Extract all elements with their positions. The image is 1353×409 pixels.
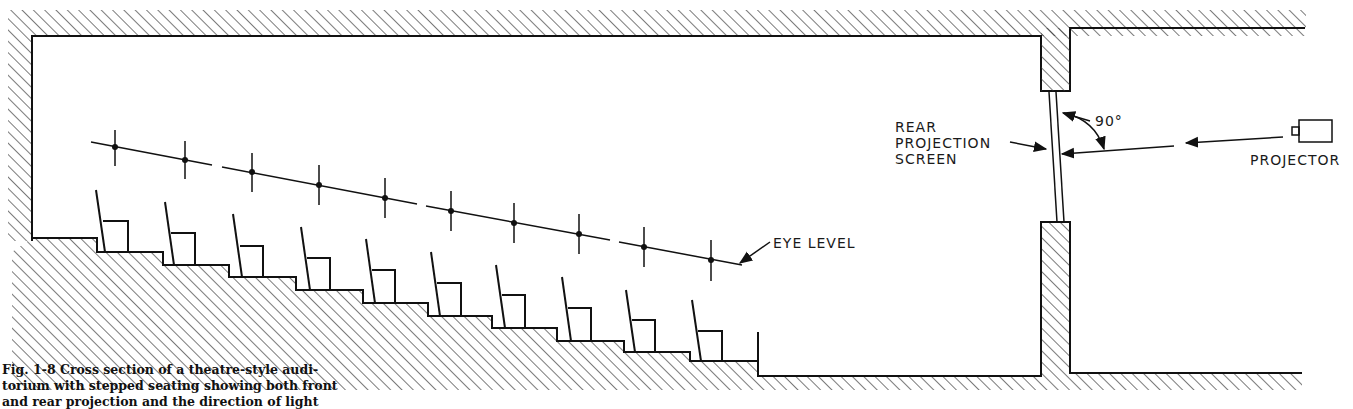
- caption-line-3: and rear projection and the direction of…: [2, 394, 342, 409]
- cross-section-diagram: EYE LEVEL REAR PROJECTION SCREEN 90° PRO…: [0, 0, 1353, 409]
- seat: [431, 252, 461, 316]
- eye-level-pointer-arrow: [740, 242, 770, 263]
- screen-label-line-1: REAR: [895, 119, 937, 135]
- projector-icon: [1292, 120, 1332, 142]
- seat: [496, 265, 525, 328]
- seat: [96, 190, 128, 252]
- angle-label: 90°: [1095, 113, 1123, 129]
- seat: [301, 227, 330, 290]
- seat: [366, 239, 395, 303]
- seat: [165, 202, 195, 265]
- projector-label: PROJECTOR: [1250, 152, 1340, 168]
- eye-level-line: [91, 130, 770, 281]
- caption-line-2: torium with stepped seating showing both…: [2, 378, 342, 394]
- screen-label-line-2: PROJECTION: [895, 135, 991, 151]
- seat: [233, 214, 263, 277]
- screen-label-line-3: SCREEN: [895, 151, 958, 167]
- eye-level-label: EYE LEVEL: [773, 235, 856, 251]
- screen-pointer-arrow: [1010, 142, 1046, 149]
- figure-caption: Fig. 1-8 Cross section of a theatre-styl…: [2, 362, 342, 409]
- seat: [692, 300, 722, 361]
- rear-projection-screen: [1049, 92, 1064, 222]
- rear-wall: [8, 36, 32, 241]
- upper-screen-pier: [1041, 28, 1070, 91]
- caption-line-1: Fig. 1-8 Cross section of a theatre-styl…: [2, 362, 342, 378]
- seat: [626, 290, 655, 352]
- seat: [562, 277, 591, 341]
- auditorium-cross-section-figure: EYE LEVEL REAR PROJECTION SCREEN 90° PRO…: [0, 0, 1353, 409]
